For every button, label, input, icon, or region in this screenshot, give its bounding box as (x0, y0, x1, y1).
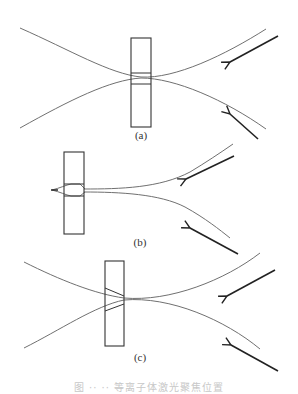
panel-c-label: (c) (134, 351, 146, 363)
laser-arrow-upper (227, 270, 275, 296)
sample-block (105, 261, 124, 346)
beam-lower-curve (24, 300, 260, 349)
beam-upper-curve (24, 253, 260, 298)
laser-arrow-lower (230, 114, 258, 139)
panel-a (20, 28, 278, 139)
sample-block (64, 152, 84, 234)
panel-b-label: (b) (134, 236, 147, 248)
panel-c (24, 253, 278, 371)
panel-a-label: (a) (135, 129, 147, 141)
beam-lower-curve (84, 192, 230, 238)
laser-arrow-lower (190, 228, 238, 254)
beam-lens-upper (52, 184, 85, 190)
laser-arrow-lower (231, 345, 278, 371)
figure-caption: 图 ·· ·· 等离子体激光聚焦位置 (74, 379, 224, 394)
beam-lens-lower (52, 190, 85, 196)
beam-lower-curve (20, 78, 266, 129)
laser-arrow-upper (230, 36, 278, 62)
sample-block (131, 38, 151, 127)
beam-upper-curve (20, 28, 266, 77)
